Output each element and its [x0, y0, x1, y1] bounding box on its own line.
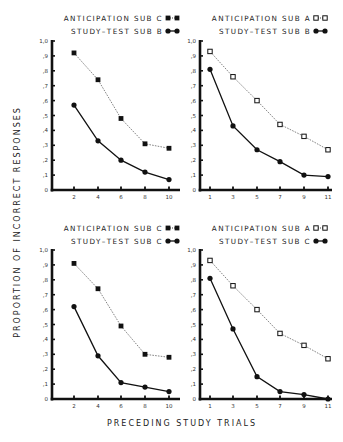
bottom-left-y-tick-label: ,4 [43, 336, 49, 342]
top-right-series-0-point [278, 122, 282, 126]
bottom-left-y-tick-label: ,3 [43, 351, 49, 357]
top-left-y-tick-label: ,2 [43, 157, 48, 163]
bottom-left-legend-swatch-marker [174, 238, 179, 243]
bottom-left-y-tick-label: 0 [45, 396, 49, 402]
bottom-right-legend-swatch-marker [322, 238, 327, 243]
top-right-y-tick-label: ,8 [191, 68, 197, 74]
bottom-left-x-tick-label: 6 [119, 403, 123, 409]
y-axis-label: PROPORTION OF INCORRECT RESPONSES [13, 106, 22, 338]
top-left-x-tick-label: 2 [72, 194, 76, 200]
bottom-left-legend-label: STUDY–TEST SUB C [71, 237, 163, 246]
top-left-series-1-point [95, 138, 100, 143]
bottom-left-y-tick-label: ,6 [43, 307, 49, 313]
bottom-right-y-tick-label: 0 [193, 396, 197, 402]
bottom-right-series-0-point [278, 331, 282, 335]
bottom-right-series-0-point [231, 284, 235, 288]
top-left-y-tick-label: ,5 [43, 113, 49, 119]
top-right-y-tick-label: ,2 [191, 157, 196, 163]
top-right-x-tick-label: 7 [278, 194, 282, 200]
top-left-legend-swatch-marker [165, 28, 170, 33]
top-right-series-1-line [210, 69, 328, 176]
top-left-legend-swatch-marker [174, 28, 179, 33]
bottom-left-series-0-point [167, 355, 172, 360]
bottom-right-x-tick-label: 1 [208, 403, 212, 409]
bottom-left-series-1-point [95, 353, 100, 358]
bottom-right-y-tick-label: ,3 [191, 351, 197, 357]
top-left-y-tick-label: 0 [45, 187, 49, 193]
top-left-y-tick-label: ,3 [43, 142, 49, 148]
bottom-right-y-tick-label: ,2 [191, 366, 196, 372]
top-right-series-1-point [254, 147, 259, 152]
bottom-left-legend-swatch-marker [175, 226, 180, 231]
bottom-right-series-0-point [208, 258, 212, 262]
top-right-x-tick-label: 5 [255, 194, 259, 200]
bottom-right-series-0-line [210, 260, 328, 358]
top-right-series-1-point [325, 174, 330, 179]
top-right-series-1-point [277, 159, 282, 164]
top-right-legend-label: STUDY–TEST SUB B [219, 27, 311, 36]
bottom-left-legend-swatch-marker [166, 226, 171, 231]
top-right-legend-swatch-marker [314, 16, 318, 20]
bottom-left-y-tick-label: ,9 [43, 262, 49, 268]
bottom-right-legend-label: STUDY–TEST SUB C [219, 237, 311, 246]
bottom-right-legend-swatch-marker [314, 226, 318, 230]
top-right-series-0-point [326, 148, 330, 152]
bottom-right-series-0-point [302, 343, 306, 347]
bottom-right-x-tick-label: 5 [255, 403, 259, 409]
top-left-series-0-point [72, 51, 77, 56]
bottom-left-series-1-point [166, 389, 171, 394]
bottom-left-series-0-point [96, 286, 101, 291]
top-right-y-tick-label: ,9 [191, 53, 197, 59]
bottom-right-y-tick-label: ,9 [191, 262, 197, 268]
top-left-series-1-point [142, 170, 147, 175]
top-right-x-tick-label: 1 [208, 194, 212, 200]
bottom-right-series-1-line [210, 278, 328, 399]
bottom-right-series-1-point [230, 326, 235, 331]
top-right-series-1-point [301, 173, 306, 178]
bottom-left-series-0-point [72, 261, 77, 266]
top-left-series-0-point [167, 146, 172, 151]
top-right-y-tick-label: ,1 [191, 172, 196, 178]
bottom-right-series-1-point [325, 396, 330, 401]
bottom-right-y-tick-label: ,7 [191, 292, 197, 298]
top-left-y-tick-label: ,8 [43, 68, 49, 74]
bottom-right-series-0-point [255, 307, 259, 311]
bottom-right-y-tick-label: ,5 [191, 322, 197, 328]
bottom-right-y-tick-label: ,1 [191, 381, 196, 387]
bottom-right-series-1-point [277, 389, 282, 394]
bottom-left-legend-label: ANTICIPATION SUB C [64, 224, 163, 233]
top-left-y-tick-label: ,7 [43, 83, 49, 89]
top-left-x-tick-label: 8 [143, 194, 147, 200]
bottom-left-x-tick-label: 2 [72, 403, 76, 409]
bottom-left-series-1-point [71, 304, 76, 309]
bottom-right-y-tick-label: ,4 [191, 336, 197, 342]
top-right-x-tick-label: 3 [231, 194, 235, 200]
top-left-legend-label: STUDY–TEST SUB B [71, 27, 163, 36]
bottom-right-legend-swatch-marker [313, 238, 318, 243]
top-left-y-tick-label: ,9 [43, 53, 49, 59]
bottom-left-y-tick-label: ,1 [43, 381, 48, 387]
top-right-y-tick-label: 1,0 [187, 38, 196, 44]
bottom-right-x-tick-label: 9 [302, 403, 306, 409]
top-right-legend-swatch-marker [313, 28, 318, 33]
top-left-legend-swatch-marker [175, 16, 180, 21]
bottom-right-series-0-point [326, 357, 330, 361]
top-left-legend-label: ANTICIPATION SUB C [64, 14, 163, 23]
bottom-left-y-tick-label: ,2 [43, 366, 48, 372]
bottom-right-legend-label: ANTICIPATION SUB A [212, 224, 311, 233]
bottom-left-y-tick-label: ,8 [43, 277, 49, 283]
top-right-y-tick-label: 0 [193, 187, 197, 193]
bottom-left-x-tick-label: 4 [96, 403, 100, 409]
bottom-left-series-1-point [118, 380, 123, 385]
bottom-right-legend-swatch-marker [323, 226, 327, 230]
top-right-legend-swatch-marker [323, 16, 327, 20]
bottom-left-series-1-point [142, 384, 147, 389]
bottom-left-series-0-point [119, 324, 124, 329]
bottom-right-series-1-point [254, 374, 259, 379]
bottom-left-y-tick-label: ,7 [43, 292, 49, 298]
top-left-series-0-point [96, 77, 101, 82]
bottom-left-series-0-line [74, 263, 169, 357]
top-right-y-tick-label: ,3 [191, 142, 197, 148]
top-left-x-tick-label: 4 [96, 194, 100, 200]
x-axis-label: PRECEDING STUDY TRIALS [107, 419, 257, 428]
